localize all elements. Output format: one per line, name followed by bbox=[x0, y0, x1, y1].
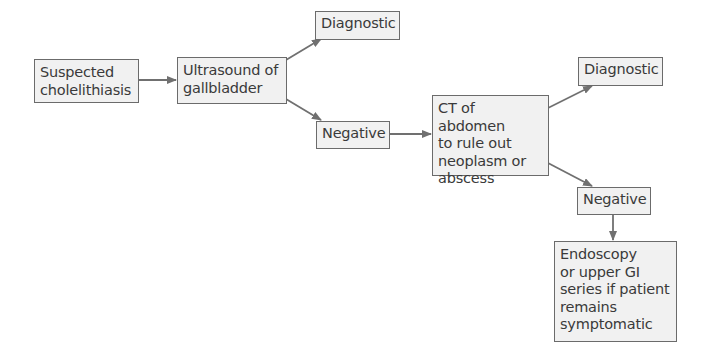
arrow-ultrasound-to-negative bbox=[286, 99, 321, 120]
node-negative-2: Negative bbox=[577, 187, 651, 215]
node-ct-abdomen: CT of abdomen to rule out neoplasm or ab… bbox=[432, 95, 549, 176]
arrow-ultrasound-to-diagnostic bbox=[286, 39, 321, 60]
node-diagnostic-2: Diagnostic bbox=[578, 57, 663, 86]
node-suspected-cholelithiasis: Suspected cholelithiasis bbox=[34, 59, 139, 103]
node-endoscopy: Endoscopy or upper GI series if patient … bbox=[554, 241, 677, 342]
arrow-ct-to-negative bbox=[548, 163, 592, 186]
node-negative-1: Negative bbox=[316, 121, 390, 149]
arrow-ct-to-diagnostic bbox=[548, 86, 592, 108]
node-diagnostic-1: Diagnostic bbox=[315, 11, 400, 40]
node-ultrasound-of-gallbladder: Ultrasound of gallbladder bbox=[177, 57, 287, 104]
